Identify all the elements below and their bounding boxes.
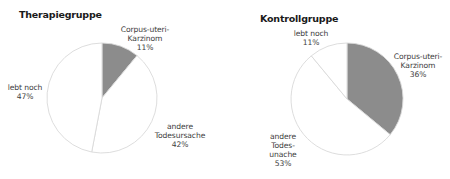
label-line: andere bbox=[155, 122, 205, 131]
label-line: Corpus-uteri- bbox=[121, 25, 170, 34]
control-chart-title: Kontrollgruppe bbox=[260, 13, 338, 24]
label-line: lebt noch bbox=[294, 29, 329, 38]
label-line: Corpus-uteri- bbox=[394, 52, 443, 61]
therapy-label-alive: lebt noch 47% bbox=[8, 83, 43, 101]
label-line: Karzinom bbox=[121, 34, 170, 43]
therapy-label-tumor: Corpus-uteri- Karzinom 11% bbox=[121, 25, 170, 52]
label-line: andere bbox=[269, 132, 296, 141]
therapy-pie bbox=[47, 43, 157, 153]
label-line: unache bbox=[269, 150, 296, 159]
control-label-tumor: Corpus-uteri- Karzinom 36% bbox=[394, 52, 443, 79]
label-line: Todesursache bbox=[155, 131, 205, 140]
control-label-alive: lebt noch 11% bbox=[294, 29, 329, 47]
pie-charts bbox=[0, 0, 450, 179]
control-label-other: andere Todes- unache 53% bbox=[269, 132, 296, 168]
label-value: 11% bbox=[294, 38, 329, 47]
pie-slice bbox=[47, 43, 102, 152]
label-value: 53% bbox=[269, 159, 296, 168]
label-line: Todes- bbox=[269, 141, 296, 150]
label-value: 36% bbox=[394, 70, 443, 79]
label-value: 42% bbox=[155, 140, 205, 149]
therapy-label-other: andere Todesursache 42% bbox=[155, 122, 205, 149]
label-line: Karzinom bbox=[394, 61, 443, 70]
label-value: 11% bbox=[121, 43, 170, 52]
control-pie bbox=[291, 43, 403, 155]
label-line: lebt noch bbox=[8, 83, 43, 92]
label-value: 47% bbox=[8, 92, 43, 101]
